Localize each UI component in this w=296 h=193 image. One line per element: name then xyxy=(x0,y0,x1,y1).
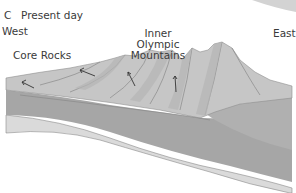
inner-olympic-line3: Mountains xyxy=(128,50,188,61)
panel-letter: C xyxy=(4,10,11,21)
east-label: East xyxy=(273,28,296,39)
inner-olympic-mountains-label: Inner Olympic Mountains xyxy=(128,28,188,61)
core-rocks-label: Core Rocks xyxy=(13,50,71,61)
panel-title: Present day xyxy=(21,10,83,21)
west-label: West xyxy=(2,26,28,37)
ocean-plate-fragment xyxy=(252,0,296,12)
